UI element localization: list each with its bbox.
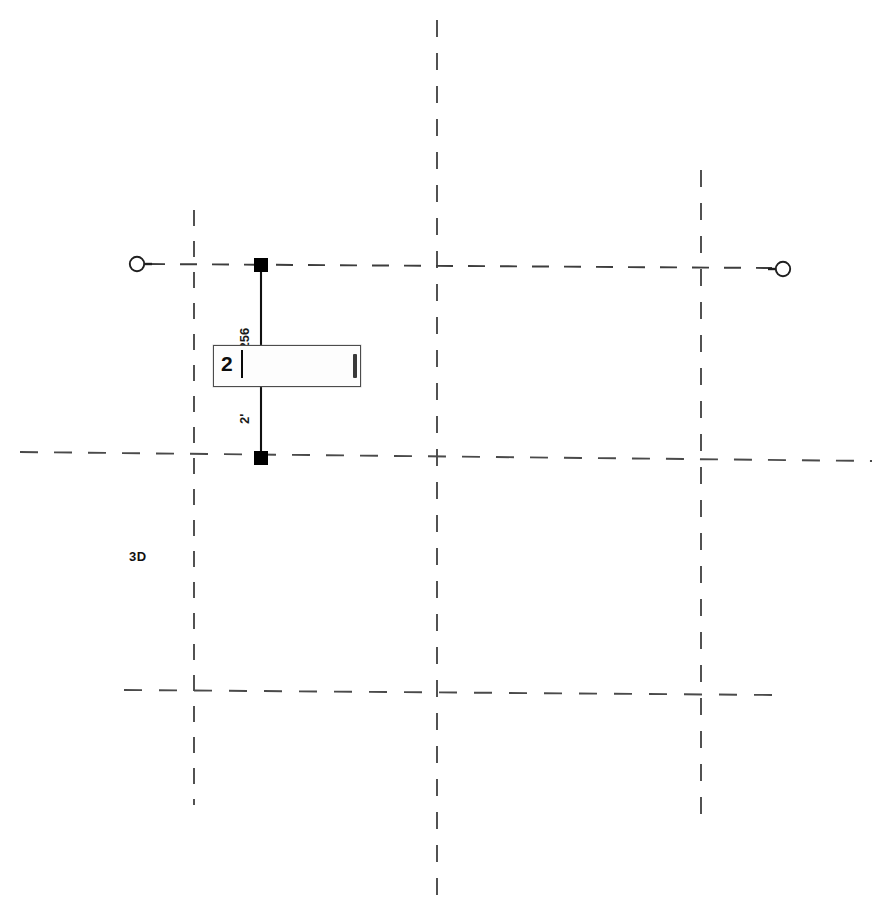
dimension-grip-bottom[interactable] <box>255 452 268 465</box>
dimension-value-input[interactable]: 2 <box>213 345 361 387</box>
dimension-grip-top[interactable] <box>255 259 268 272</box>
view-mode-label[interactable]: 3D <box>129 549 146 564</box>
text-caret <box>241 350 243 378</box>
grid-line-3[interactable] <box>124 690 776 695</box>
grid-bubble-left-icon[interactable] <box>130 257 144 271</box>
grid-bubble-right-icon[interactable] <box>776 262 790 276</box>
plan-vector-layer <box>0 0 876 908</box>
dimension-line-track[interactable] <box>148 264 772 268</box>
dimension-input-text: 2 <box>221 352 233 376</box>
dimension-label-lower[interactable]: 2' <box>237 414 252 424</box>
input-scroll-grip[interactable] <box>353 354 357 378</box>
drawing-canvas[interactable]: /256 2' 2 3D <box>0 0 876 908</box>
grid-line-2[interactable] <box>20 452 872 461</box>
horizontal-gridlines <box>20 452 872 695</box>
dimension-reference-line[interactable] <box>130 257 790 276</box>
vertical-gridlines <box>194 20 701 898</box>
